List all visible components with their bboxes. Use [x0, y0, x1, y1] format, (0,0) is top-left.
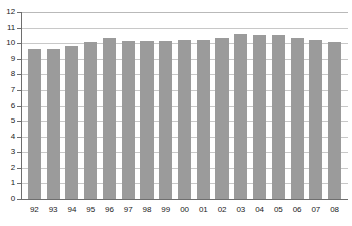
bar[interactable]: [178, 40, 191, 199]
bar[interactable]: [253, 35, 266, 199]
x-axis-tick-label: 04: [250, 205, 269, 214]
bar[interactable]: [140, 41, 153, 199]
x-axis-tick-label: 95: [81, 205, 100, 214]
bar[interactable]: [122, 41, 135, 199]
x-axis-tick-label: 08: [325, 205, 344, 214]
bar[interactable]: [215, 38, 228, 199]
bars-container: [0, 0, 352, 226]
bar[interactable]: [47, 49, 60, 199]
bar[interactable]: [234, 34, 247, 199]
x-axis-tick-label: 93: [44, 205, 63, 214]
bar[interactable]: [65, 46, 78, 199]
x-axis-tick-label: 94: [63, 205, 82, 214]
x-axis-tick-label: 01: [194, 205, 213, 214]
bar[interactable]: [291, 38, 304, 199]
x-axis-tick-label: 99: [156, 205, 175, 214]
x-axis-tick-label: 97: [119, 205, 138, 214]
x-axis-tick-label: 96: [100, 205, 119, 214]
x-axis-tick-label: 07: [306, 205, 325, 214]
bar-chart: 0123456789101112 92939495969798990001020…: [0, 0, 352, 226]
bar[interactable]: [28, 49, 41, 199]
x-axis-tick-label: 02: [213, 205, 232, 214]
bar[interactable]: [103, 38, 116, 199]
x-axis-tick-label: 98: [138, 205, 157, 214]
bar[interactable]: [309, 40, 322, 199]
x-axis-tick-label: 05: [269, 205, 288, 214]
bar[interactable]: [159, 41, 172, 199]
x-axis-tick-label: 03: [231, 205, 250, 214]
bar[interactable]: [197, 40, 210, 199]
bar[interactable]: [272, 35, 285, 199]
bar[interactable]: [328, 42, 341, 199]
x-axis-tick-label: 92: [25, 205, 44, 214]
x-axis-tick-label: 06: [288, 205, 307, 214]
bar[interactable]: [84, 42, 97, 199]
x-axis-tick-label: 00: [175, 205, 194, 214]
